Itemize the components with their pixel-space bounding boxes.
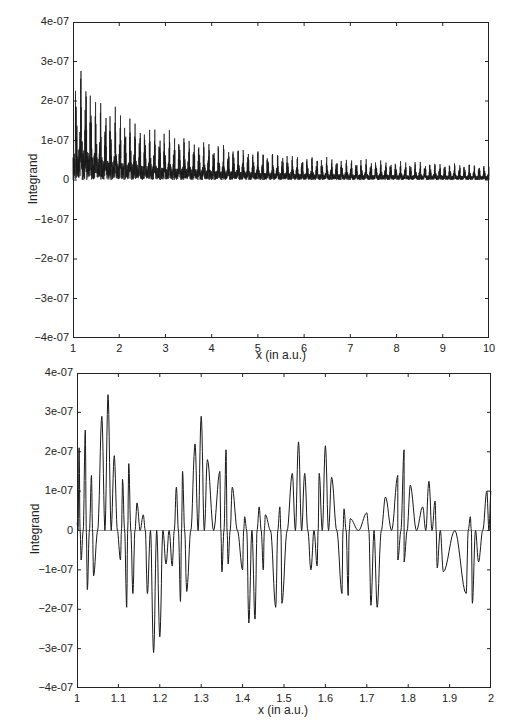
x-tick-label: 2 (476, 692, 506, 704)
x-tick-label: 1 (62, 692, 92, 704)
x-tick-label: 1.8 (393, 692, 423, 704)
x-tick-label: 1.9 (435, 692, 465, 704)
y-tick-label: 0 (11, 524, 73, 536)
y-tick-label: −1e-07 (11, 563, 73, 575)
y-tick-label: −2e-07 (11, 602, 73, 614)
x-tick-label: 1.7 (352, 692, 382, 704)
y-tick-label: 3e-07 (11, 405, 73, 417)
y-tick-label: 2e-07 (11, 445, 73, 457)
bottom-plot-panel: Integrand 4e-073e-072e-071e-070−1e-07−2e… (0, 0, 509, 726)
bottom-x-axis-label: x (in a.u.) (258, 703, 308, 717)
y-tick-label: −3e-07 (11, 642, 73, 654)
x-tick-label: 1.4 (228, 692, 258, 704)
x-tick-label: 1.1 (103, 692, 133, 704)
x-tick-label: 1.3 (186, 692, 216, 704)
bottom-plot-trace (77, 373, 491, 688)
x-tick-label: 1.6 (310, 692, 340, 704)
x-tick-label: 1.2 (145, 692, 175, 704)
y-tick-label: 4e-07 (11, 366, 73, 378)
y-tick-label: 1e-07 (11, 484, 73, 496)
